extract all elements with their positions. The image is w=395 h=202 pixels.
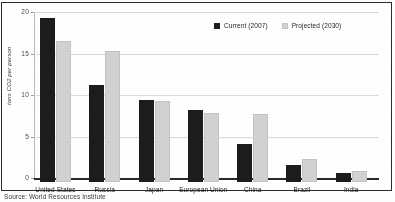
- y-tick-mark: [31, 178, 34, 179]
- x-axis-category-label: India: [344, 186, 359, 193]
- chart-legend: Current (2007)Projected (2030): [214, 22, 341, 29]
- bar-group: United States: [40, 16, 71, 182]
- legend-item: Projected (2030): [282, 22, 342, 29]
- legend-swatch-current-icon: [214, 23, 220, 29]
- x-axis-category-label: Brazil: [293, 186, 310, 193]
- bar-projected: [155, 101, 170, 182]
- source-caption: Source: World Resources Institute: [4, 193, 106, 200]
- y-tick-mark: [31, 95, 34, 96]
- y-tick-label: 15: [21, 50, 29, 57]
- y-tick-label: 0: [25, 175, 29, 182]
- bar-current: [336, 173, 351, 182]
- plot-area: 05101520 United StatesRussiaJapanEuropea…: [34, 12, 379, 182]
- bar-group: China: [237, 16, 268, 182]
- bar-projected: [352, 171, 367, 182]
- bar-projected: [105, 51, 120, 182]
- legend-swatch-projected-icon: [282, 23, 288, 29]
- y-tick-label: 20: [21, 9, 29, 16]
- bar-current: [40, 18, 55, 182]
- bar-current: [188, 110, 203, 182]
- bar-group: European Union: [188, 16, 219, 182]
- gridline: [34, 12, 379, 13]
- chart-figure: tons CO2 per person 05101520 United Stat…: [0, 0, 395, 202]
- bar-projected: [204, 113, 219, 182]
- y-tick-mark: [31, 137, 34, 138]
- y-axis-title: tons CO2 per person: [6, 46, 12, 105]
- x-axis-category-label: European Union: [179, 186, 227, 193]
- y-tick-label: 10: [21, 92, 29, 99]
- legend-label: Projected (2030): [292, 22, 342, 29]
- bar-group: Brazil: [286, 16, 317, 182]
- bar-projected: [253, 114, 268, 182]
- legend-item: Current (2007): [214, 22, 268, 29]
- x-axis-category-label: China: [244, 186, 261, 193]
- y-tick-mark: [31, 54, 34, 55]
- bar-group: India: [336, 16, 367, 182]
- y-tick-mark: [31, 12, 34, 13]
- bar-group: Japan: [139, 16, 170, 182]
- x-axis-category-label: United States: [35, 186, 75, 193]
- bar-projected: [56, 41, 71, 182]
- bar-current: [139, 100, 154, 182]
- bar-current: [286, 165, 301, 182]
- bar-current: [89, 85, 104, 182]
- y-tick-label: 5: [25, 133, 29, 140]
- x-axis-category-label: Japan: [145, 186, 163, 193]
- x-axis-category-label: Russia: [95, 186, 115, 193]
- bar-current: [237, 144, 252, 182]
- bar-projected: [302, 159, 317, 182]
- legend-label: Current (2007): [224, 22, 268, 29]
- bar-group: Russia: [89, 16, 120, 182]
